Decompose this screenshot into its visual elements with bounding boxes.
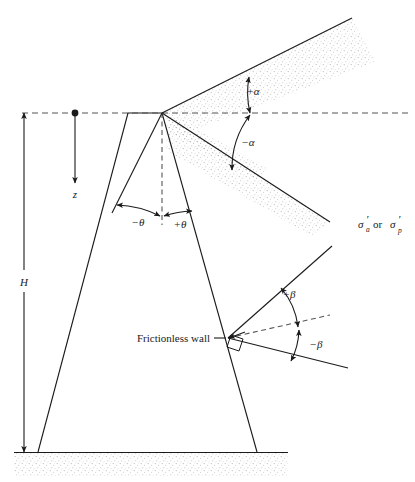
wall-normal-dashed-line — [228, 315, 330, 338]
label-depth: z — [72, 188, 78, 200]
label-theta-negative: −θ — [132, 216, 145, 228]
earth-pressure-sign-convention-figure: +α −α −θ +θ +β −β H z Frictionless wall … — [0, 0, 415, 482]
label-beta-positive: +β — [283, 288, 296, 300]
diagram-canvas: +α −α −θ +θ +β −β H z Frictionless wall … — [0, 0, 415, 482]
label-sigma-passive-subscript: p — [397, 226, 402, 235]
label-alpha-positive: +α — [246, 85, 259, 97]
soil-stipple-upslope — [162, 18, 375, 134]
stress-ray-beta-negative — [228, 338, 348, 368]
label-height: H — [19, 276, 29, 288]
label-alpha-negative: −α — [241, 136, 254, 148]
label-sigma-passive-symbol: σ — [390, 218, 396, 230]
label-sigma-passive-prime: ′ — [398, 213, 401, 225]
theta-negative-ray — [112, 113, 162, 213]
label-sigma-active-prime: ′ — [366, 213, 369, 225]
beta-negative-arc — [291, 330, 299, 361]
label-beta-negative: −β — [310, 338, 323, 350]
label-sigma-active-subscript: a — [366, 225, 370, 234]
label-stress-sigma: σ ′ a or σ ′ p — [358, 213, 402, 235]
theta-negative-arc — [117, 205, 160, 216]
soil-stipple-base — [14, 453, 288, 476]
theta-positive-arc — [164, 211, 192, 216]
wall-left-face-line — [38, 113, 128, 452]
backfill-surface-downslope-line — [162, 113, 330, 222]
label-sigma-active-symbol: σ — [358, 218, 364, 230]
label-sigma-conjunction: or — [373, 218, 383, 230]
label-theta-positive: +θ — [174, 218, 187, 230]
label-frictionless-wall: Frictionless wall — [137, 332, 210, 344]
stress-ray-beta-positive — [228, 246, 332, 338]
